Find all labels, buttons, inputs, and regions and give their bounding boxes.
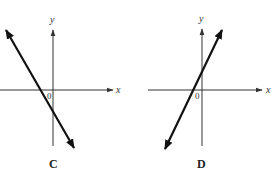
origin-label: 0 — [195, 91, 200, 101]
panel-label: C — [49, 157, 58, 171]
origin-label: 0 — [47, 91, 52, 101]
plotted-line — [6, 30, 74, 148]
graph-d: x y 0 D — [148, 13, 271, 171]
x-axis-label: x — [265, 84, 271, 95]
graphs-figure: x y 0 C x y 0 D — [0, 0, 273, 171]
panel-label: D — [197, 157, 206, 171]
y-axis-label: y — [49, 14, 55, 25]
y-axis-label: y — [198, 13, 204, 24]
x-axis-label: x — [115, 84, 121, 95]
graph-c: x y 0 C — [0, 14, 121, 171]
